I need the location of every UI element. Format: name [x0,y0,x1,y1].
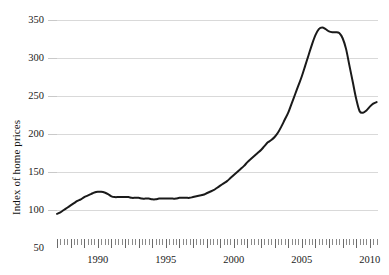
x-tick-minor [254,239,255,245]
x-tick-minor [360,239,361,245]
x-tick-minor [295,239,296,245]
x-tick-minor [353,239,354,245]
x-tick-minor [122,239,123,245]
x-tick-minor [162,239,163,245]
x-tick-minor [210,239,211,245]
x-tick-minor [176,239,177,245]
x-tick-minor [305,239,306,245]
x-tick-minor [203,239,204,245]
x-tick-minor [118,239,119,245]
x-tick-year-2006 [315,239,316,248]
x-tick-minor [196,239,197,245]
x-tick-year-1988 [71,239,72,248]
x-tick-year-1989 [84,239,85,248]
x-tick-minor [135,239,136,245]
x-tick-minor [241,239,242,245]
x-tick-minor [142,239,143,245]
x-tick-year-1993 [139,239,140,248]
x-tick-minor [346,239,347,245]
x-tick-minor [115,239,116,245]
x-tick-minor [326,239,327,245]
x-tick-minor [264,239,265,245]
x-tick-minor [186,239,187,245]
x-tick-year-2009 [356,239,357,248]
x-tick-year-1999 [220,239,221,248]
x-tick-minor [190,239,191,245]
x-tick-minor [271,239,272,245]
x-tick-year-1995 [166,239,167,248]
x-tick-minor [213,239,214,245]
x-tick-year-2001 [247,239,248,248]
x-tick-minor [336,239,337,245]
x-tick-minor [285,239,286,245]
x-tick-minor [366,239,367,245]
x-tick-year-1987 [57,239,58,248]
x-tick-year-2007 [329,239,330,248]
x-tick-minor [227,239,228,245]
x-tick-minor [77,239,78,245]
x-tick-minor [298,239,299,245]
x-tick-minor [309,239,310,245]
x-tick-label-1995: 1995 [155,255,176,266]
x-tick-minor [108,239,109,245]
x-tick-minor [88,239,89,245]
x-tick-year-2010 [370,239,371,248]
x-tick-year-1996 [179,239,180,248]
x-tick-minor [169,239,170,245]
x-tick-minor [268,239,269,245]
x-tick-minor [64,239,65,245]
x-tick-minor [237,239,238,245]
x-tick-minor [373,239,374,245]
x-tick-minor [312,239,313,245]
x-tick-year-2005 [302,239,303,248]
x-tick-minor [251,239,252,245]
x-tick-minor [105,239,106,245]
x-tick-minor [60,239,61,245]
x-tick-minor [101,239,102,245]
x-tick-year-1992 [125,239,126,248]
x-tick-year-2000 [234,239,235,248]
x-tick-label-1990: 1990 [87,255,108,266]
x-tick-minor [128,239,129,245]
x-tick-label-2010: 2010 [359,255,380,266]
x-tick-minor [145,239,146,245]
x-tick-minor [244,239,245,245]
x-tick-year-1997 [193,239,194,248]
x-tick-year-2003 [275,239,276,248]
x-tick-label-2000: 2000 [223,255,244,266]
x-tick-minor [74,239,75,245]
x-tick-minor [156,239,157,245]
x-tick-minor [200,239,201,245]
x-tick-year-2008 [343,239,344,248]
x-tick-minor [159,239,160,245]
x-tick-minor [339,239,340,245]
x-tick-minor [224,239,225,245]
x-tick-minor [258,239,259,245]
x-tick-minor [94,239,95,245]
x-tick-year-1990 [98,239,99,248]
x-tick-minor [319,239,320,245]
x-tick-minor [149,239,150,245]
x-tick-minor [217,239,218,245]
x-tick-minor [278,239,279,245]
x-tick-minor [363,239,364,245]
x-tick-minor [81,239,82,245]
x-tick-year-1991 [111,239,112,248]
x-tick-minor [349,239,350,245]
x-tick-minor [230,239,231,245]
x-tick-minor [183,239,184,245]
x-tick-year-1994 [152,239,153,248]
x-tick-year-2002 [261,239,262,248]
x-tick-minor [91,239,92,245]
x-tick-year-1998 [207,239,208,248]
x-axis: 19901995200020052010 [0,0,389,275]
x-tick-minor [173,239,174,245]
x-tick-minor [377,239,378,245]
x-tick-minor [322,239,323,245]
x-tick-minor [67,239,68,245]
x-tick-year-2004 [288,239,289,248]
x-tick-label-2005: 2005 [291,255,312,266]
x-tick-minor [292,239,293,245]
x-tick-minor [281,239,282,245]
chart-container: Index of home prices 5010015020025030035… [0,0,389,275]
